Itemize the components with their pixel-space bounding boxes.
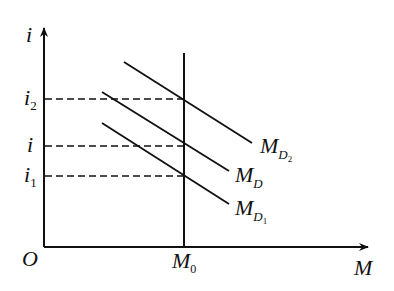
money-market-diagram: i M O M0 i2 i i1 MD2 MD MD1 [0,0,394,291]
interest-label-i: i [27,132,33,157]
demand-label-md2: MD2 [259,133,292,164]
demand-curve-md [102,92,229,171]
demand-curve-md2 [124,62,252,143]
x-axis-label: M [353,255,374,280]
origin-label: O [22,246,38,271]
interest-label-i1: i1 [24,162,37,190]
demand-curve-md1 [102,123,229,204]
interest-label-i2: i2 [24,85,37,113]
demand-label-md1: MD1 [234,195,267,226]
demand-label-md: MD [234,162,263,191]
money-supply-label: M0 [171,248,196,276]
y-axis-label: i [26,22,32,47]
